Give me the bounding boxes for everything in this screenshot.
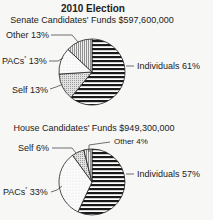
senate-subtitle: Senate Candidates' Funds $597,600,000 xyxy=(10,15,173,25)
chart-title: 2010 Election xyxy=(61,3,125,14)
house-subtitle: House Candidates' Funds $949,300,000 xyxy=(14,123,175,133)
house-label-self: Self 6% xyxy=(18,143,49,153)
senate-pie xyxy=(59,39,125,105)
house-pie xyxy=(59,149,125,215)
senate-label-pacs: PACs* 13% xyxy=(2,55,47,66)
senate-label-other: Other 13% xyxy=(6,30,49,40)
house-label-other: Other 4% xyxy=(114,137,148,146)
senate-label-individuals: Individuals 61% xyxy=(137,61,200,71)
senate-label-self: Self 13% xyxy=(12,85,48,95)
house-label-pacs: PACs* 33% xyxy=(3,186,48,197)
house-label-individuals: Individuals 57% xyxy=(137,169,200,179)
election-funds-chart: 2010 Election Senate Candidates' Funds $… xyxy=(0,0,213,220)
